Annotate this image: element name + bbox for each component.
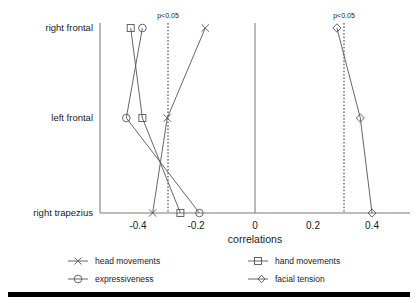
data-series-layer	[123, 24, 377, 217]
xtick-label-neg04: -0.4	[129, 220, 147, 231]
x-marker	[202, 24, 209, 31]
correlations-chart-figure: p<0.05 p<0.05 right frontal left frontal…	[0, 0, 418, 303]
xtick-label-neg02: -0.2	[187, 220, 205, 231]
xtick-label-zero: 0	[252, 220, 258, 231]
legend-label-head-movements: head movements	[95, 256, 160, 266]
footer-rule	[8, 292, 410, 297]
legend-label-facial-tension: facial tension	[275, 274, 325, 284]
series-path	[337, 28, 372, 213]
legend: head movements hand movements expressive…	[68, 256, 340, 284]
series-path	[153, 28, 206, 213]
chart-canvas: p<0.05 p<0.05 right frontal left frontal…	[0, 0, 418, 303]
series-hand-movements	[127, 25, 184, 217]
series-path	[126, 28, 199, 213]
series-head-movements	[149, 24, 209, 216]
ytick-label-left-frontal: left frontal	[51, 112, 93, 123]
legend-entry-hand-movements[interactable]: hand movements	[248, 256, 340, 266]
series-path	[131, 28, 181, 213]
legend-entry-head-movements[interactable]: head movements	[68, 256, 160, 266]
legend-label-expressiveness: expressiveness	[95, 274, 154, 284]
ytick-label-right-trapezius: right trapezius	[33, 207, 93, 218]
legend-label-hand-movements: hand movements	[275, 256, 340, 266]
ytick-label-right-frontal: right frontal	[45, 22, 93, 33]
legend-entry-expressiveness[interactable]: expressiveness	[68, 274, 154, 284]
x-axis-title: correlations	[228, 233, 282, 245]
legend-entry-facial-tension[interactable]: facial tension	[248, 274, 325, 284]
xtick-label-pos04: 0.4	[365, 220, 379, 231]
significance-label-left: p<0.05	[157, 12, 179, 20]
series-facial-tension	[333, 24, 376, 217]
series-expressiveness	[123, 24, 204, 217]
xtick-label-pos02: 0.2	[306, 220, 320, 231]
significance-label-right: p<0.05	[333, 12, 355, 20]
